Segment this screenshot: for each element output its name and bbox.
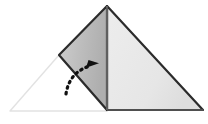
paper-fold-diagram <box>0 0 208 124</box>
diagram-canvas <box>0 0 208 124</box>
